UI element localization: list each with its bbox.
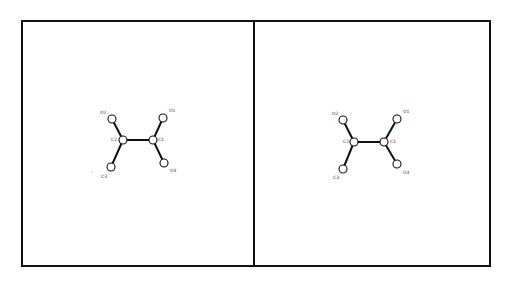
atom-c2 [119, 136, 127, 144]
atom-label-o3: O3 [403, 170, 410, 175]
molecule-panel-left: O2C2C3C1O1O3 [100, 108, 177, 179]
atom-label-c2: C2 [111, 137, 117, 142]
atom-label-c3: C3 [333, 175, 339, 180]
atom-o3 [393, 160, 401, 168]
atom-label-o1: O1 [169, 108, 176, 113]
atom-o1 [393, 115, 401, 123]
scan-speck [91, 171, 93, 173]
atom-label-c2: C2 [343, 139, 349, 144]
atom-c3 [339, 165, 347, 173]
atom-c2 [350, 138, 358, 146]
stereo-molecule-figure: O2C2C3C1O1O3 O2C2C3C1O1O3 [0, 0, 506, 281]
atom-label-o3: O3 [170, 168, 177, 173]
atom-o1 [159, 114, 167, 122]
molecule-panel-right: O2C2C3C1O1O3 [332, 109, 410, 180]
atom-label-o2: O2 [332, 111, 339, 116]
atom-o2 [108, 115, 116, 123]
atom-label-o2: O2 [100, 110, 107, 115]
atom-label-o1: O1 [403, 109, 410, 114]
atom-label-c3: C3 [101, 174, 107, 179]
atom-c3 [107, 163, 115, 171]
atom-o2 [339, 116, 347, 124]
figure-frame [22, 21, 490, 266]
atom-c1 [149, 136, 157, 144]
atom-label-c1: C1 [158, 137, 164, 142]
atom-label-c1: C1 [390, 139, 396, 144]
atom-o3 [160, 159, 168, 167]
atom-c1 [380, 138, 388, 146]
